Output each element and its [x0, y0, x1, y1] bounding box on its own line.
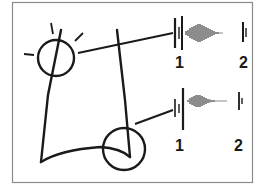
upper-signal-trace	[175, 16, 246, 50]
tooth-outline	[41, 30, 130, 162]
upper-connector	[78, 33, 173, 53]
lower-connector	[135, 110, 173, 124]
ray-icon	[75, 33, 83, 41]
upper-trace-label-1: 1	[175, 54, 184, 71]
upper-trace-label-2: 2	[239, 54, 248, 71]
tooth-signal-diagram: 1 2 1 2	[0, 0, 264, 189]
lower-trace-label-2: 2	[234, 137, 243, 154]
ray-icon	[24, 54, 34, 55]
lower-signal-trace	[175, 88, 242, 130]
lower-trace-label-1: 1	[175, 137, 184, 154]
ray-icon	[51, 23, 53, 34]
